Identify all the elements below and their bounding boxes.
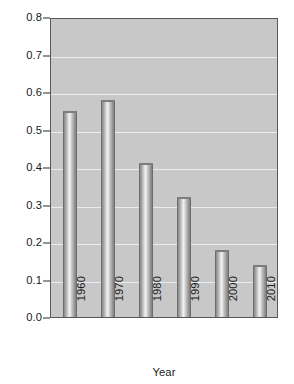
y-tick-mark [43,93,50,94]
y-tick-mark [43,280,50,281]
x-tick-label: 1960 [75,276,87,322]
y-tick-mark [43,18,50,19]
x-axis-title: Year [50,366,278,378]
y-tick-label: 0.6 [2,87,42,98]
x-tick-label: 1990 [189,276,201,322]
bar-cap [139,163,153,165]
y-tick-mark [43,168,50,169]
y-tick-label: 0.3 [2,200,42,211]
y-tick-mark [43,205,50,206]
x-tick-label: 2000 [227,276,239,322]
x-tick-label: 1980 [151,276,163,322]
gridline [51,244,277,245]
x-tick-label: 2010 [265,276,277,322]
y-tick-label: 0.8 [2,12,42,23]
bar-cap [101,100,115,102]
gridline [51,57,277,58]
gridline [51,169,277,170]
y-tick-label: 0.2 [2,237,42,248]
y-tick-label: 0.5 [2,125,42,136]
plot-area [50,18,278,318]
y-tick-label: 0.1 [2,275,42,286]
bar-cap [215,250,229,252]
bar-cap [177,197,191,199]
gridline [51,132,277,133]
y-tick-label: 0.7 [2,50,42,61]
y-tick-label: 0.4 [2,162,42,173]
y-tick-mark [43,130,50,131]
gridline [51,94,277,95]
bar-cap [253,265,267,267]
x-tick-label: 1970 [113,276,125,322]
y-tick-mark [43,243,50,244]
gridline [51,207,277,208]
bar-cap [63,111,77,113]
ozone-level-bar-chart: Ozone level (parts per million) 0.00.10.… [0,0,294,384]
y-tick-mark [43,318,50,319]
y-tick-mark [43,55,50,56]
y-tick-label: 0.0 [2,312,42,323]
